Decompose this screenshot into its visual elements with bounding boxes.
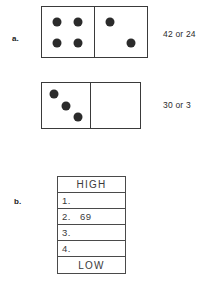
pip-dot xyxy=(74,39,83,48)
answer-text-top: 42 or 24 xyxy=(163,29,196,39)
pip-dot xyxy=(74,18,83,27)
pip-dot xyxy=(73,113,82,122)
problem-label-a: a. xyxy=(12,34,19,43)
domino-bottom-left-half xyxy=(42,83,91,128)
low-label: LOW xyxy=(78,260,104,271)
pip-dot xyxy=(50,90,59,99)
high-label: HIGH xyxy=(77,179,107,190)
domino-top-right-half xyxy=(95,7,148,57)
domino-top xyxy=(41,6,148,58)
problem-label-b: b. xyxy=(14,197,21,206)
answer-text-bottom: 30 or 3 xyxy=(163,100,191,110)
row-number: 2. xyxy=(58,211,71,222)
table-row[interactable]: 4. xyxy=(58,241,125,257)
table-row[interactable]: 2. 69 xyxy=(58,209,125,225)
table-row[interactable]: 1. xyxy=(58,193,125,209)
pip-dot xyxy=(62,101,71,110)
row-value[interactable]: 69 xyxy=(71,211,92,222)
pip-dot xyxy=(106,18,115,27)
ranking-table-header-row: HIGH xyxy=(58,177,125,193)
row-number: 3. xyxy=(58,227,71,238)
domino-top-left-half xyxy=(42,7,95,57)
pip-dot xyxy=(53,39,62,48)
row-number: 1. xyxy=(58,195,71,206)
table-row[interactable]: 3. xyxy=(58,225,125,241)
ranking-table: HIGH 1. 2. 69 3. 4. LOW xyxy=(57,176,126,274)
pip-dot xyxy=(53,18,62,27)
ranking-table-footer-row: LOW xyxy=(58,257,125,273)
domino-bottom-right-half xyxy=(91,83,140,128)
pip-dot xyxy=(127,39,136,48)
row-number: 4. xyxy=(58,243,71,254)
domino-bottom xyxy=(41,82,141,129)
